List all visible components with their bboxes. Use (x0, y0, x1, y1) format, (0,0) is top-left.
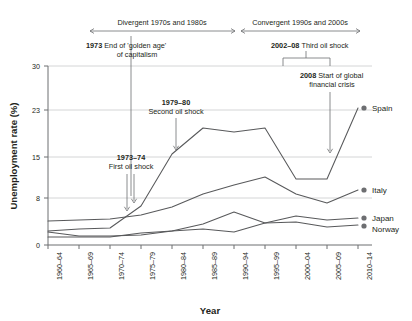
x-tick-1: 1965–69 (86, 252, 95, 280)
x-tick-9: 2005–09 (334, 252, 343, 280)
y-tick-23: 23 (32, 106, 40, 115)
x-axis-title: Year (200, 305, 221, 316)
legend-label-japan: Japan (372, 214, 394, 223)
x-tick-5: 1985–89 (210, 252, 219, 280)
series-line-spain (48, 108, 358, 231)
legend: Spain Italy Japan Norway (361, 104, 399, 234)
annotation-1979-80-year: 1979–80 (162, 98, 190, 107)
annotation-1973-line1: End of 'golden age' (104, 41, 167, 50)
x-tick-2: 1970–74 (117, 252, 126, 280)
series-line-norway (48, 212, 358, 236)
x-tick-7: 1995–99 (272, 252, 281, 280)
annotation-2002-08: 2002–08Third oil shock (271, 41, 349, 66)
annotation-1973-year: 1973 (86, 41, 102, 50)
series-line-italy (48, 177, 358, 221)
era-convergent-label: Convergent 1990s and 2000s (252, 18, 348, 27)
annotation-2008-year: 2008 (300, 71, 316, 80)
annotation-1979-80-label: Second oil shock (148, 107, 204, 116)
unemployment-rate-chart: Divergent 1970s and 1980s Convergent 199… (0, 0, 412, 321)
y-tick-0: 0 (36, 241, 40, 250)
legend-marker-norway (361, 223, 366, 228)
x-tick-4: 1980–84 (179, 252, 188, 280)
era-divergent-label: Divergent 1970s and 1980s (117, 18, 207, 27)
y-tick-15: 15 (32, 153, 40, 162)
x-tick-8: 2000–04 (303, 252, 312, 280)
annotation-1973-74-label: First oil shock (109, 162, 154, 171)
annotation-2002-08-text: 2002–08Third oil shock (271, 41, 349, 50)
era-span-convergent: Convergent 1990s and 2000s (241, 18, 360, 33)
series-lines (48, 108, 358, 237)
annotation-1979-80: 1979–80 Second oil shock (148, 98, 204, 150)
legend-label-norway: Norway (372, 225, 399, 234)
era-span-divergent: Divergent 1970s and 1980s (90, 18, 235, 33)
x-tick-3: 1975–79 (148, 252, 157, 280)
y-tick-8: 8 (36, 194, 40, 203)
annotation-1973-line2: of capitalism (117, 50, 158, 59)
chart-svg: Divergent 1970s and 1980s Convergent 199… (0, 0, 412, 321)
annotation-2008-line2: financial crisis (309, 80, 355, 89)
legend-label-spain: Spain (372, 104, 392, 113)
annotation-1973-text: 1973End of 'golden age' (86, 41, 167, 50)
annotation-2008-text: 2008Start of global (300, 71, 364, 80)
y-axis: 30 23 15 8 0 Unemployment rate (%) (8, 62, 48, 250)
annotation-1973-74-year: 1973–74 (117, 153, 146, 162)
annotation-2008-line1: Start of global (318, 71, 363, 80)
annotation-2008: 2008Start of global financial crisis (300, 71, 364, 153)
x-tick-10: 2010–14 (365, 252, 374, 280)
legend-label-italy: Italy (372, 186, 387, 195)
annotation-2002-08-label: Third oil shock (301, 41, 348, 50)
x-tick-0: 1960–64 (55, 252, 64, 280)
x-tick-6: 1990–94 (241, 252, 250, 280)
annotation-2002-08-year: 2002–08 (271, 41, 299, 50)
x-axis: 1960–64 1965–69 1970–74 1975–79 1980–84 … (48, 245, 374, 316)
y-axis-title: Unemployment rate (%) (8, 102, 19, 209)
y-tick-30: 30 (32, 62, 40, 71)
annotation-1973: 1973End of 'golden age' of capitalism (86, 36, 167, 196)
legend-marker-italy (361, 187, 366, 192)
legend-marker-japan (361, 215, 366, 220)
legend-marker-spain (361, 105, 366, 110)
